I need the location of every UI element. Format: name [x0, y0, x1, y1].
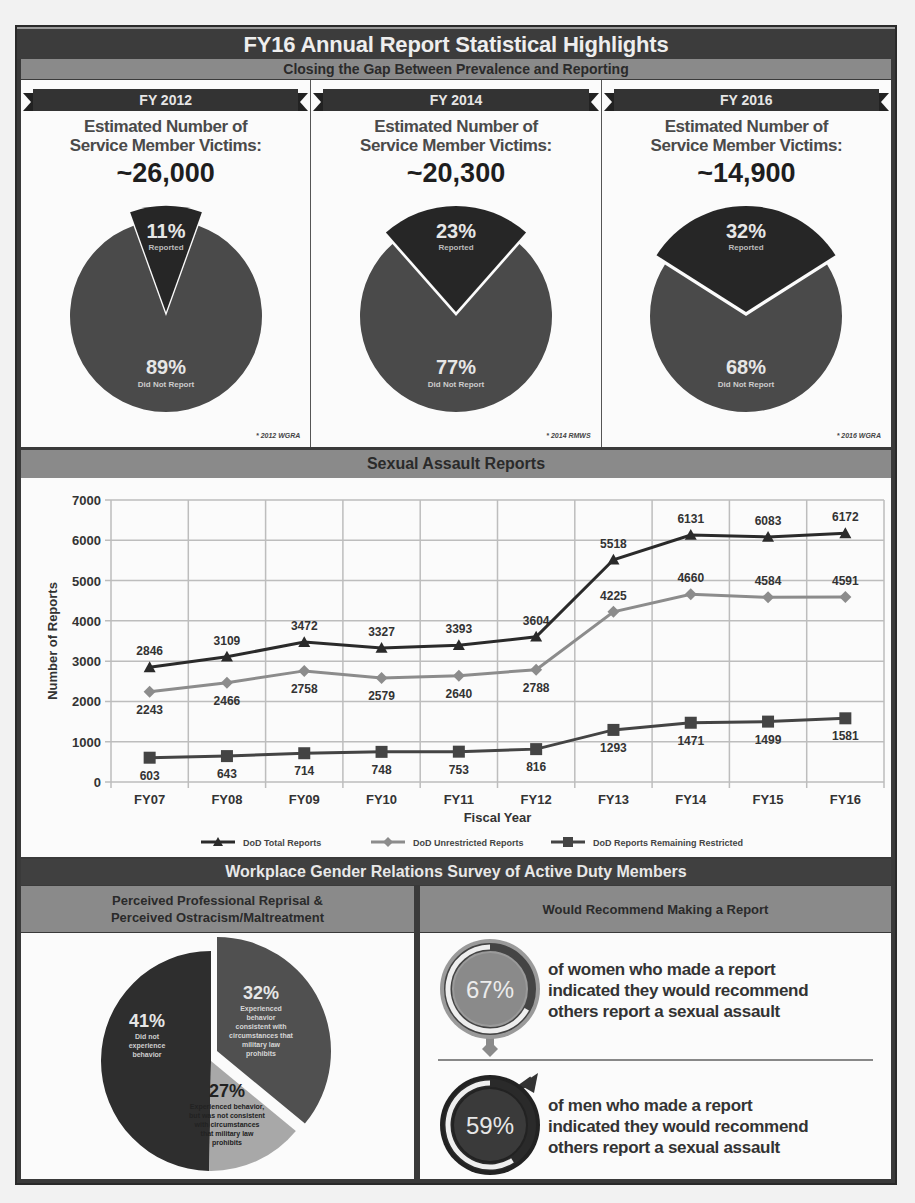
- label-not-consistent: prohibits: [212, 1139, 242, 1147]
- y-tick-label: 7000: [72, 493, 101, 508]
- x-tick-label: FY12: [521, 792, 552, 807]
- data-label: 714: [294, 764, 314, 778]
- reporting-pie-chart: 11%Reported89%Did Not Report: [46, 194, 286, 434]
- female-symbol-icon: 67%: [434, 937, 554, 1057]
- women-text-line1: of women who made a report: [548, 959, 878, 980]
- reported-label: Reported: [729, 243, 764, 252]
- y-tick-label: 0: [94, 775, 101, 790]
- prevalence-column-3: FY 2016 Estimated Number of Service Memb…: [602, 80, 891, 447]
- estimate-label: Estimated Number of Service Member Victi…: [311, 117, 600, 155]
- reported-label: Reported: [438, 243, 473, 252]
- recommend-panel-header: Would Recommend Making a Report: [420, 886, 891, 932]
- men-text-line2: indicated they would recommend: [548, 1116, 878, 1137]
- x-tick-label: FY07: [134, 792, 165, 807]
- recommend-men-item: 59% of men who made a report indicated t…: [420, 1067, 891, 1177]
- data-label: 1293: [600, 741, 627, 755]
- prevalence-column-2: FY 2014 Estimated Number of Service Memb…: [311, 80, 601, 447]
- label-not-consistent: with circumstances: [194, 1121, 260, 1128]
- not-reported-label: Did Not Report: [718, 380, 775, 389]
- reports-section-heading: Sexual Assault Reports: [21, 450, 891, 478]
- data-label: 4584: [755, 574, 782, 588]
- recommend-women-text: of women who made a report indicated the…: [548, 959, 878, 1022]
- data-label: 3327: [368, 625, 395, 639]
- data-label: 603: [140, 769, 160, 783]
- slice-did-not-experience: [101, 951, 211, 1171]
- pct-did-not-experience: 41%: [129, 1011, 165, 1031]
- not-reported-pct: 89%: [146, 356, 186, 378]
- pct-not-consistent: 27%: [209, 1081, 245, 1101]
- data-label: 4225: [600, 589, 627, 603]
- reported-label: Reported: [148, 243, 183, 252]
- data-label: 6172: [832, 510, 859, 524]
- estimate-label-line1: Estimated Number of: [21, 117, 310, 136]
- recommend-pct: 67%: [466, 976, 514, 1003]
- label-did-not-experience: experience: [129, 1042, 166, 1050]
- prevalence-section-heading: Closing the Gap Between Prevalence and R…: [21, 59, 891, 79]
- y-tick-label: 5000: [72, 574, 101, 589]
- recommend-panel: Would Recommend Making a Report 67% of w…: [420, 886, 891, 1179]
- reprisal-pie-panel: 41%Did notexperiencebehavior32%Experienc…: [21, 933, 414, 1179]
- survey-section-heading: Workplace Gender Relations Survey of Act…: [21, 859, 891, 885]
- y-axis-label: Number of Reports: [45, 582, 60, 700]
- recommend-women-item: 67% of women who made a report indicated…: [420, 937, 891, 1047]
- data-label: 2846: [136, 644, 163, 658]
- not-reported-pct: 77%: [436, 356, 476, 378]
- label-did-not-experience: behavior: [132, 1051, 161, 1058]
- y-tick-label: 6000: [72, 533, 101, 548]
- x-tick-label: FY08: [211, 792, 242, 807]
- data-label: 2788: [523, 681, 550, 695]
- x-tick-label: FY14: [675, 792, 707, 807]
- page-title: FY16 Annual Report Statistical Highlight…: [17, 27, 895, 59]
- data-label: 3109: [214, 634, 241, 648]
- data-label: 2640: [445, 687, 472, 701]
- data-label: 1581: [832, 729, 859, 743]
- estimate-value: ~26,000: [21, 158, 310, 188]
- data-label: 1499: [755, 733, 782, 747]
- estimate-label-line1: Estimated Number of: [311, 117, 600, 136]
- label-did-not-experience: Did not: [135, 1033, 160, 1040]
- x-tick-label: FY09: [289, 792, 320, 807]
- x-tick-label: FY15: [753, 792, 784, 807]
- data-label: 816: [526, 760, 546, 774]
- reported-pct: 11%: [146, 220, 185, 242]
- recommend-divider: [438, 1059, 873, 1061]
- data-label: 2758: [291, 682, 318, 696]
- estimate-label-line2: Service Member Victims:: [602, 136, 891, 155]
- not-reported-label: Did Not Report: [137, 380, 194, 389]
- data-label: 6131: [677, 512, 704, 526]
- estimate-label-line1: Estimated Number of: [602, 117, 891, 136]
- reporting-pie-chart: 23%Reported77%Did Not Report: [336, 194, 576, 434]
- x-tick-label: FY10: [366, 792, 397, 807]
- male-symbol-icon: 59%: [434, 1063, 554, 1183]
- y-tick-label: 4000: [72, 614, 101, 629]
- label-consistent: Experienced: [240, 1005, 282, 1013]
- data-label: 3604: [523, 614, 550, 628]
- data-label: 753: [449, 763, 469, 777]
- estimate-label-line2: Service Member Victims:: [311, 136, 600, 155]
- year-ribbon: FY 2012: [33, 89, 298, 111]
- men-text-line3: others report a sexual assault: [548, 1137, 878, 1158]
- reprisal-panel-header: Perceived Professional Reprisal & Percei…: [21, 886, 414, 932]
- label-consistent: consistent with: [236, 1023, 287, 1030]
- label-not-consistent: Experienced behavior,: [190, 1103, 264, 1111]
- data-label: 3472: [291, 619, 318, 633]
- not-reported-label: Did Not Report: [428, 380, 485, 389]
- line-chart-svg: 01000200030004000500060007000FY07FY08FY0…: [21, 478, 895, 857]
- data-label: 1471: [677, 734, 704, 748]
- prevalence-column-1: FY 2012 Estimated Number of Service Memb…: [21, 80, 311, 447]
- estimate-label: Estimated Number of Service Member Victi…: [21, 117, 310, 155]
- reprisal-header-line1: Perceived Professional Reprisal &: [111, 892, 324, 909]
- reprisal-pie-chart: 41%Did notexperiencebehavior32%Experienc…: [21, 933, 414, 1179]
- infographic-frame: FY16 Annual Report Statistical Highlight…: [15, 25, 897, 1185]
- y-tick-label: 2000: [72, 694, 101, 709]
- reprisal-panel: Perceived Professional Reprisal & Percei…: [21, 886, 414, 1179]
- year-ribbon: FY 2016: [614, 89, 879, 111]
- data-label: 4660: [677, 571, 704, 585]
- label-not-consistent: that military law: [201, 1130, 254, 1138]
- legend-label: DoD Reports Remaining Restricted: [593, 838, 743, 848]
- y-tick-label: 3000: [72, 654, 101, 669]
- legend-label: DoD Unrestricted Reports: [413, 838, 524, 848]
- estimate-value: ~20,300: [311, 158, 600, 188]
- women-text-line2: indicated they would recommend: [548, 980, 878, 1001]
- sexual-assault-reports-chart: 01000200030004000500060007000FY07FY08FY0…: [21, 478, 891, 857]
